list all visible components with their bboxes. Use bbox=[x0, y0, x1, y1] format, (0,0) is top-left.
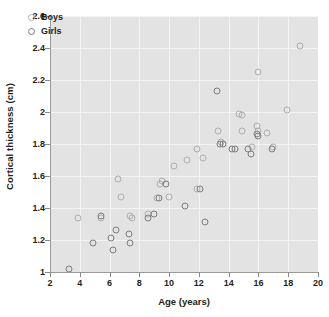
plot-area bbox=[50, 16, 318, 272]
x-axis-tick-mark bbox=[229, 272, 230, 277]
x-axis-tick-mark bbox=[50, 272, 51, 277]
data-point-boys bbox=[166, 193, 173, 200]
data-point-boys bbox=[75, 214, 82, 221]
data-point-boys bbox=[239, 112, 246, 119]
y-axis-tick-label: 2.4 bbox=[1, 43, 45, 53]
data-point-girls bbox=[112, 227, 119, 234]
data-point-girls bbox=[125, 230, 132, 237]
scatter-plot-figure: Cortical thickness (cm) 11.21.41.61.822.… bbox=[0, 0, 329, 317]
gridline-horizontal bbox=[50, 144, 318, 145]
x-axis-tick-label: 2 bbox=[35, 278, 65, 288]
x-axis-tick-mark bbox=[199, 272, 200, 277]
y-axis-tick-label: 1 bbox=[1, 267, 45, 277]
y-axis-tick-mark bbox=[45, 208, 50, 209]
data-point-girls bbox=[219, 141, 226, 148]
data-point-girls bbox=[248, 150, 255, 157]
legend-item-girls: Girls bbox=[28, 24, 63, 38]
x-axis-tick-mark bbox=[318, 272, 319, 277]
legend-label-girls: Girls bbox=[41, 26, 62, 36]
data-point-girls bbox=[66, 265, 73, 272]
data-point-boys bbox=[118, 193, 125, 200]
y-axis-title: Cortical thickness (cm) bbox=[2, 0, 16, 272]
x-axis-tick-mark bbox=[288, 272, 289, 277]
data-point-boys bbox=[183, 157, 190, 164]
x-axis-tick-label: 6 bbox=[95, 278, 125, 288]
data-point-boys bbox=[297, 43, 304, 50]
data-point-boys bbox=[239, 128, 246, 135]
x-axis-tick-label: 10 bbox=[154, 278, 184, 288]
data-point-girls bbox=[127, 240, 134, 247]
data-point-girls bbox=[268, 145, 275, 152]
data-point-girls bbox=[163, 181, 170, 188]
legend-marker-girls-icon bbox=[28, 28, 35, 35]
data-point-girls bbox=[155, 195, 162, 202]
x-axis-title: Age (years) bbox=[50, 296, 318, 307]
legend-label-boys: Boys bbox=[41, 12, 63, 22]
legend: Boys Girls bbox=[28, 10, 63, 38]
legend-item-boys: Boys bbox=[28, 10, 63, 24]
gridline-horizontal bbox=[50, 176, 318, 177]
x-axis-tick-label: 18 bbox=[273, 278, 303, 288]
data-point-girls bbox=[109, 246, 116, 253]
data-point-girls bbox=[182, 203, 189, 210]
y-axis-tick-label: 2 bbox=[1, 107, 45, 117]
x-axis-tick-label: 12 bbox=[184, 278, 214, 288]
x-axis-tick-label: 20 bbox=[303, 278, 329, 288]
y-axis-tick-mark bbox=[45, 112, 50, 113]
data-point-boys bbox=[170, 163, 177, 170]
y-axis-tick-label: 1.2 bbox=[1, 235, 45, 245]
data-point-boys bbox=[128, 214, 135, 221]
data-point-boys bbox=[115, 176, 122, 183]
data-point-girls bbox=[201, 219, 208, 226]
y-axis-tick-label: 2.2 bbox=[1, 75, 45, 85]
x-axis-tick-mark bbox=[139, 272, 140, 277]
y-axis-tick-mark bbox=[45, 48, 50, 49]
data-point-girls bbox=[197, 185, 204, 192]
y-axis-tick-label: 1.4 bbox=[1, 203, 45, 213]
data-point-boys bbox=[200, 155, 207, 162]
data-point-boys bbox=[215, 128, 222, 135]
data-point-boys bbox=[283, 107, 290, 114]
data-point-girls bbox=[231, 145, 238, 152]
x-axis-tick-label: 16 bbox=[243, 278, 273, 288]
x-axis-tick-mark bbox=[258, 272, 259, 277]
gridline-horizontal bbox=[50, 80, 318, 81]
y-axis-tick-label: 1.8 bbox=[1, 139, 45, 149]
data-point-girls bbox=[151, 211, 158, 218]
x-axis-tick-label: 14 bbox=[214, 278, 244, 288]
y-axis-tick-mark bbox=[45, 80, 50, 81]
gridline-horizontal bbox=[50, 16, 318, 17]
gridline-horizontal bbox=[50, 112, 318, 113]
y-axis-tick-mark bbox=[45, 144, 50, 145]
data-point-boys bbox=[194, 145, 201, 152]
data-point-girls bbox=[97, 213, 104, 220]
x-axis-tick-label: 4 bbox=[65, 278, 95, 288]
x-axis-line bbox=[50, 272, 318, 273]
x-axis-tick-mark bbox=[80, 272, 81, 277]
y-axis-tick-label: 1.6 bbox=[1, 171, 45, 181]
data-point-girls bbox=[108, 235, 115, 242]
x-axis-tick-mark bbox=[110, 272, 111, 277]
y-axis-tick-mark bbox=[45, 240, 50, 241]
data-point-girls bbox=[90, 240, 97, 247]
y-axis-line bbox=[50, 16, 51, 272]
data-point-boys bbox=[264, 129, 271, 136]
data-point-girls bbox=[255, 133, 262, 140]
gridline-horizontal bbox=[50, 48, 318, 49]
x-axis-tick-label: 8 bbox=[124, 278, 154, 288]
data-point-girls bbox=[213, 88, 220, 95]
x-axis-tick-mark bbox=[169, 272, 170, 277]
legend-marker-boys-icon bbox=[28, 14, 35, 21]
y-axis-tick-mark bbox=[45, 176, 50, 177]
data-point-boys bbox=[255, 69, 262, 76]
